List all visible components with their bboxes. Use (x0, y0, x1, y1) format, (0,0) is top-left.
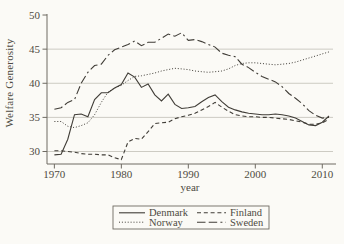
series-line-sweden (54, 33, 329, 118)
x-tick-label: 1990 (177, 168, 200, 180)
y-tick-label: 35 (29, 111, 41, 123)
y-tick-label: 50 (29, 9, 41, 21)
y-axis-title: Welfare Generosity (3, 2, 17, 164)
x-axis-title: year (120, 181, 260, 193)
welfare-generosity-figure: 303540455019701980199020002010DenmarkFin… (0, 0, 344, 244)
y-tick-label: 45 (29, 43, 41, 55)
legend-label-norway: Norway (149, 217, 184, 228)
legend-label-sweden: Sweden (230, 217, 264, 228)
y-tick-label: 40 (29, 77, 41, 89)
y-tick-label: 30 (29, 145, 41, 157)
x-tick-label: 1980 (110, 168, 133, 180)
x-tick-label: 1970 (43, 168, 66, 180)
chart-svg: 303540455019701980199020002010DenmarkFin… (0, 0, 344, 244)
x-tick-label: 2010 (311, 168, 334, 180)
x-tick-label: 2000 (244, 168, 267, 180)
